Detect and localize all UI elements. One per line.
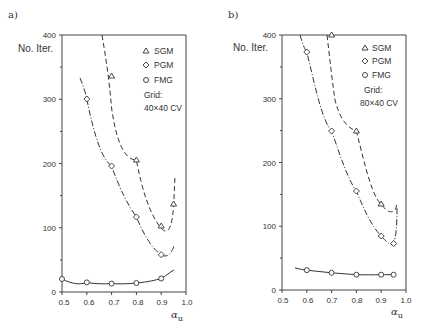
- pgm-curve-b: [300, 35, 397, 245]
- panel-b-ylabel: No. Iter.: [233, 42, 268, 53]
- svg-text:80×40 CV: 80×40 CV: [360, 98, 398, 108]
- triangle-marker-icon: [362, 45, 368, 50]
- circle-marker-icon: [144, 78, 149, 83]
- ytick-200: 200: [263, 159, 277, 168]
- ytick-100: 100: [43, 224, 57, 233]
- panel-a-xlabel: αu: [171, 309, 183, 323]
- panel-a-label: a): [8, 9, 18, 20]
- panel-a-frame: [62, 35, 186, 292]
- xtick-0.5: 0.5: [58, 298, 70, 307]
- xtick-0.6: 0.6: [83, 298, 95, 307]
- svg-text:FMG: FMG: [372, 70, 391, 80]
- svg-text:Grid:: Grid:: [144, 90, 162, 100]
- xtick-0.7: 0.7: [326, 296, 338, 305]
- panel-a-ylabel: No. Iter.: [18, 43, 53, 54]
- triangle-marker-icon: [143, 48, 149, 53]
- xtick-1.0: 1.0: [181, 298, 193, 307]
- panel-b: b) No. Iter. 0 100 200 300 400: [228, 9, 412, 320]
- panel-b-xlabel: αu: [391, 306, 403, 320]
- xtick-0.5: 0.5: [277, 296, 289, 305]
- xtick-0.7: 0.7: [108, 298, 120, 307]
- ytick-0: 0: [272, 286, 277, 295]
- ytick-400: 400: [263, 31, 277, 40]
- svg-text:SGM: SGM: [154, 46, 173, 56]
- svg-text:PGM: PGM: [372, 56, 391, 66]
- ytick-300: 300: [43, 95, 57, 104]
- svg-text:PGM: PGM: [154, 60, 173, 70]
- fmg-curve-a: [62, 270, 174, 284]
- panel-b-markers: [304, 32, 397, 277]
- svg-text:SGM: SGM: [372, 43, 391, 53]
- ytick-400: 400: [43, 31, 57, 40]
- ytick-0: 0: [52, 288, 57, 297]
- circle-marker-icon: [363, 73, 368, 78]
- panel-a-legend: SGM PGM FMG Grid: 40×40 CV: [143, 46, 182, 113]
- panel-b-yticks: 0 100 200 300 400: [263, 31, 282, 295]
- diamond-marker-icon: [143, 62, 149, 68]
- panel-a-yticks: 0 100 200 300 400: [43, 31, 62, 297]
- xtick-0.9: 0.9: [156, 298, 168, 307]
- ytick-200: 200: [43, 160, 57, 169]
- figure: a) No. Iter. 0 100 200 300 400: [0, 0, 433, 336]
- panel-a: a) No. Iter. 0 100 200 300 400: [8, 9, 193, 323]
- svg-text:Grid:: Grid:: [364, 85, 382, 95]
- ytick-300: 300: [263, 95, 277, 104]
- xtick-0.6: 0.6: [302, 296, 314, 305]
- ytick-100: 100: [263, 222, 277, 231]
- panel-b-label: b): [228, 9, 238, 20]
- diamond-marker-icon: [362, 58, 368, 64]
- xtick-0.8: 0.8: [351, 296, 363, 305]
- xtick-0.8: 0.8: [132, 298, 144, 307]
- panel-a-xticks: 0.5 0.6 0.7 0.8 0.9 1.0: [58, 292, 193, 307]
- svg-text:40×40 CV: 40×40 CV: [144, 103, 182, 113]
- xtick-0.9: 0.9: [375, 296, 387, 305]
- panel-b-legend: SGM PGM FMG Grid: 80×40 CV: [360, 43, 398, 108]
- panel-b-xticks: 0.5 0.6 0.7 0.8 0.9 1.0: [277, 290, 412, 305]
- xtick-1.0: 1.0: [400, 296, 412, 305]
- svg-text:FMG: FMG: [154, 75, 173, 85]
